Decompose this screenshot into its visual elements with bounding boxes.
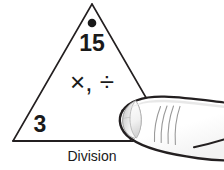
apex-number: 15: [79, 30, 105, 56]
fact-family-triangle-diagram: 15 ×, ÷ 3: [0, 0, 224, 170]
illustration-canvas: 15 ×, ÷ 3: [0, 0, 224, 170]
operations-label: ×, ÷: [70, 67, 114, 97]
caption-label: Division: [67, 148, 116, 164]
pointing-finger-illustration: [119, 97, 224, 161]
apex-dot-icon: [88, 19, 97, 28]
bottom-left-number: 3: [34, 111, 47, 137]
